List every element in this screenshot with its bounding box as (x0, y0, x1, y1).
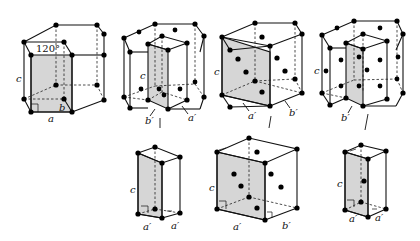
shaded-face (148, 44, 168, 109)
derived-cell-3: c a′ a′ (337, 142, 389, 224)
a-prime-label-1: a′ (143, 221, 152, 232)
derived-cell-2: c a′ b′ (209, 135, 300, 232)
b-axis-label: b (59, 102, 65, 113)
crystal-structure-diagram: 120° c b a (0, 0, 420, 241)
b-prime-label: b′ (341, 112, 350, 123)
hex-cell: 120° c b a (16, 22, 107, 124)
shaded-face (346, 43, 363, 106)
b-prime-label: b′ (289, 107, 298, 118)
c-axis-label: c (140, 70, 146, 81)
hex-cell-selection-2: c a′ b′ (214, 20, 305, 128)
a-prime-label-2: a′ (171, 220, 180, 231)
hex-cell-selection-3: c b′ (314, 18, 406, 130)
a-prime-label: a′ (233, 221, 242, 232)
derived-cell-1: c a′ a′ (130, 144, 183, 232)
shaded-face (31, 55, 72, 112)
a-prime-label-1: a′ (349, 213, 358, 224)
b-prime-label: b′ (145, 115, 154, 126)
c-axis-label: c (209, 182, 215, 193)
c-axis-label: c (130, 184, 136, 195)
b-prime-label: b′ (282, 220, 291, 231)
a-prime-label-2: a′ (375, 212, 384, 223)
c-axis-label: c (337, 178, 343, 189)
angle-label: 120° (36, 43, 60, 54)
a-axis-label: a (48, 113, 54, 124)
c-axis-label: c (214, 66, 220, 77)
shaded-face (345, 152, 368, 217)
c-axis-label: c (16, 73, 22, 84)
shaded-face (138, 153, 162, 218)
hex-cell-selection-1: c b′ a′ (121, 21, 206, 128)
a-prime-label: a′ (248, 110, 257, 121)
c-axis-label: c (314, 65, 320, 76)
a-prime-label: a′ (188, 112, 197, 123)
